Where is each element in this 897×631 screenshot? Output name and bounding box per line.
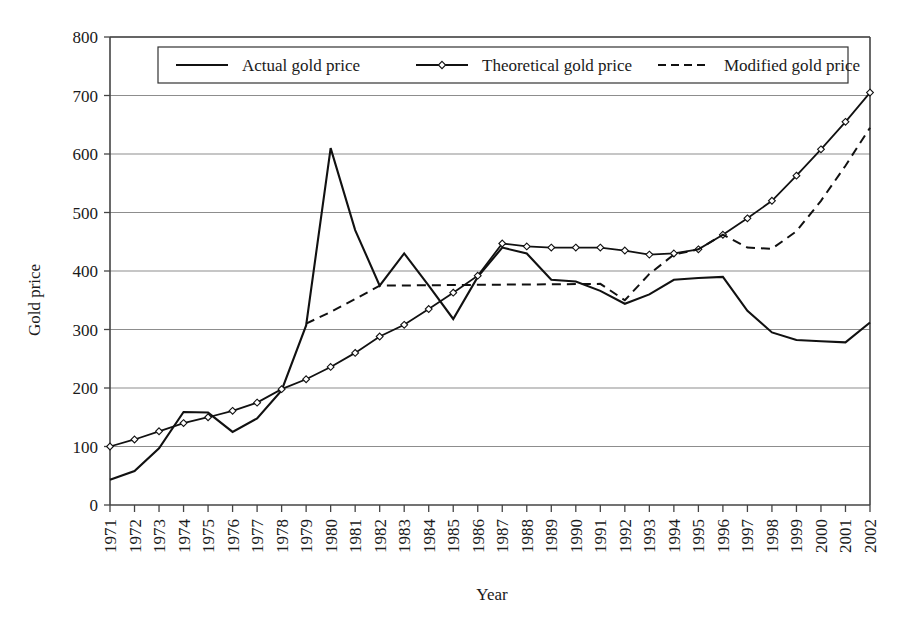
x-tick-label-1993: 1993: [640, 519, 659, 553]
x-tick-label-1973: 1973: [150, 519, 169, 553]
y-tick-label-600: 600: [73, 145, 99, 164]
x-tick-label-1976: 1976: [224, 519, 243, 553]
x-tick-label-1990: 1990: [567, 519, 586, 553]
y-tick-label-400: 400: [73, 262, 99, 281]
y-tick-label-100: 100: [73, 438, 99, 457]
x-tick-label-1995: 1995: [689, 519, 708, 553]
x-tick-label-1985: 1985: [444, 519, 463, 553]
chart-legend: Actual gold priceTheoretical gold priceM…: [158, 47, 860, 83]
x-tick-label-1975: 1975: [199, 519, 218, 553]
x-tick-label-1991: 1991: [591, 519, 610, 553]
x-tick-label-1994: 1994: [665, 519, 684, 554]
x-axis-title: Year: [476, 585, 508, 604]
x-tick-label-1974: 1974: [175, 519, 194, 554]
y-tick-label-200: 200: [73, 379, 99, 398]
x-tick-label-1977: 1977: [248, 519, 267, 554]
x-tick-label-1997: 1997: [738, 519, 757, 554]
x-tick-label-1984: 1984: [420, 519, 439, 554]
x-tick-label-2000: 2000: [812, 519, 831, 553]
x-tick-label-1999: 1999: [787, 519, 806, 553]
legend-label-modified-gold-price: Modified gold price: [724, 56, 860, 75]
x-tick-label-1988: 1988: [518, 519, 537, 553]
x-tick-label-1980: 1980: [322, 519, 341, 553]
x-tick-label-2001: 2001: [836, 519, 855, 553]
x-tick-label-1983: 1983: [395, 519, 414, 553]
x-tick-label-1971: 1971: [101, 519, 120, 553]
y-axis-tick-labels-group: 0100200300400500600700800: [73, 28, 99, 515]
y-tick-label-800: 800: [73, 28, 99, 47]
x-tick-label-1972: 1972: [126, 519, 145, 553]
x-tick-label-1998: 1998: [763, 519, 782, 553]
y-tick-label-0: 0: [90, 496, 99, 515]
y-tick-label-700: 700: [73, 87, 99, 106]
legend-label-actual-gold-price: Actual gold price: [242, 56, 360, 75]
x-tick-label-1996: 1996: [714, 519, 733, 553]
x-tick-label-1981: 1981: [346, 519, 365, 553]
x-tick-label-1989: 1989: [542, 519, 561, 553]
x-tick-label-2002: 2002: [861, 519, 880, 553]
x-tick-label-1978: 1978: [273, 519, 292, 553]
gold-price-chart: 0100200300400500600700800 19711972197319…: [0, 0, 897, 631]
x-tick-label-1986: 1986: [469, 519, 488, 553]
x-tick-label-1992: 1992: [616, 519, 635, 553]
legend-label-theoretical-gold-price: Theoretical gold price: [482, 56, 632, 75]
x-tick-label-1987: 1987: [493, 519, 512, 554]
x-tick-label-1982: 1982: [371, 519, 390, 553]
y-axis-title: Gold price: [25, 264, 44, 336]
y-tick-label-300: 300: [73, 321, 99, 340]
x-tick-label-1979: 1979: [297, 519, 316, 553]
chart-canvas: 0100200300400500600700800 19711972197319…: [0, 0, 897, 631]
y-tick-label-500: 500: [73, 204, 99, 223]
